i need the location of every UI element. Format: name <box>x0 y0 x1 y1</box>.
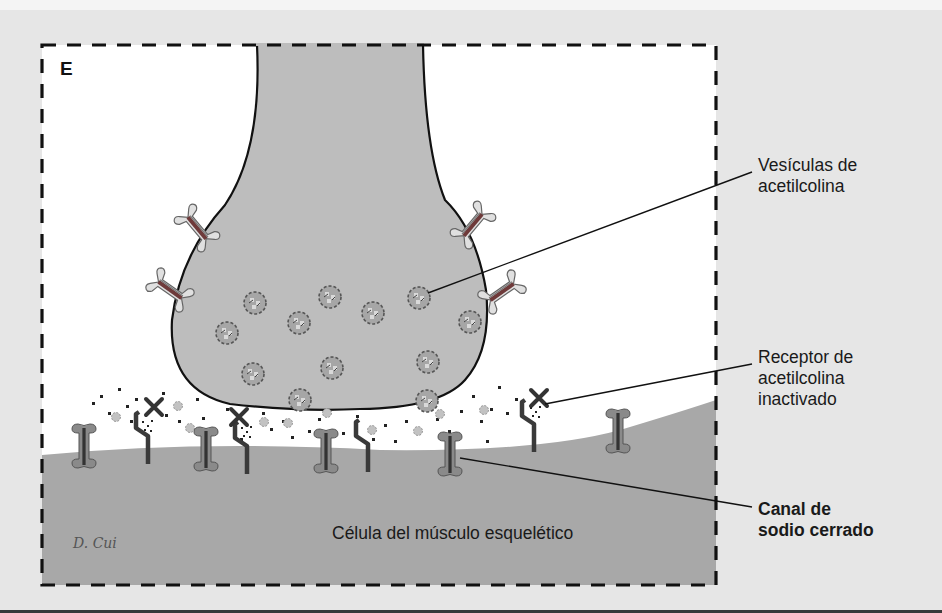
label-vesicles-line-1: Vesículas de <box>758 155 857 176</box>
label-vesicles-line-2: acetilcolina <box>758 176 857 197</box>
label-receptor: Receptor de acetilcolina inactivado <box>758 347 853 410</box>
label-muscle-cell: Célula del músculo esquelético <box>332 523 573 544</box>
label-sodium-channel-line-1: Canal de <box>758 499 874 520</box>
label-vesicles: Vesículas de acetilcolina <box>758 155 857 197</box>
label-sodium-channel: Canal de sodio cerrado <box>758 499 874 541</box>
label-sodium-channel-line-2: sodio cerrado <box>758 520 874 541</box>
panel-letter: E <box>60 58 73 80</box>
label-receptor-line-2: acetilcolina <box>758 368 853 389</box>
label-receptor-line-1: Receptor de <box>758 347 853 368</box>
label-receptor-line-3: inactivado <box>758 389 853 410</box>
author-signature: D. Cui <box>73 535 117 551</box>
